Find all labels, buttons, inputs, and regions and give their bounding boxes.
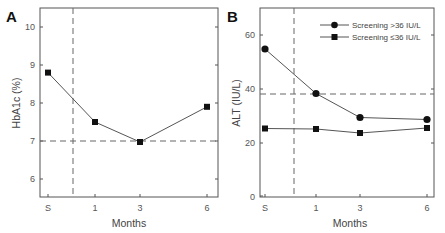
figure: A 10 9 8 7 6 S 1 3 (0, 0, 445, 233)
data-point-square (92, 119, 98, 125)
series-low-markers (262, 125, 430, 136)
panel-a: A 10 9 8 7 6 S 1 3 (6, 8, 218, 229)
y-tick-label: 60 (245, 30, 255, 40)
panel-a-x-axis-label: Months (112, 217, 146, 229)
panel-a-markers (45, 70, 210, 145)
panel-a-y-ticks: 10 9 8 7 6 (25, 22, 218, 184)
panel-a-y-axis-label: HbA1c (%) (10, 78, 22, 129)
x-tick-label: 3 (357, 203, 362, 213)
x-tick-label: 1 (92, 203, 97, 213)
series-low-line (265, 128, 427, 133)
legend-label-low: Screening ≤36 IU/L (352, 33, 421, 42)
x-tick-label: S (45, 203, 51, 213)
y-tick-label: 10 (25, 22, 35, 32)
y-tick-label: 6 (30, 174, 35, 184)
data-point-square (424, 125, 430, 131)
y-tick-label: 40 (245, 84, 255, 94)
series-high-line (265, 49, 427, 120)
x-tick-label: S (262, 203, 268, 213)
x-tick-label: 3 (137, 203, 142, 213)
x-tick-label: 6 (204, 203, 209, 213)
panel-b-x-axis-label: Months (333, 217, 367, 229)
x-tick-label: 1 (313, 203, 318, 213)
panel-a-frame (40, 8, 218, 197)
panel-a-series-line (48, 73, 207, 142)
y-tick-label: 9 (30, 60, 35, 70)
panel-b-legend: Screening >36 IU/L Screening ≤36 IU/L (320, 21, 421, 42)
data-point-square (204, 104, 210, 110)
panel-b: B 60 40 20 0 S 1 3 6 Months ALT (227, 8, 434, 229)
panel-b-label: B (227, 8, 238, 25)
data-point-circle (312, 90, 319, 97)
data-point-square (313, 126, 319, 132)
y-tick-label: 7 (30, 136, 35, 146)
data-point-square (357, 130, 363, 136)
data-point-circle (261, 45, 268, 52)
data-point-square (137, 139, 143, 145)
legend-circle-marker-icon (331, 22, 338, 29)
panel-a-label: A (6, 8, 17, 25)
data-point-square (262, 126, 268, 132)
legend-label-high: Screening >36 IU/L (352, 21, 421, 30)
x-tick-label: 6 (424, 203, 429, 213)
y-tick-label: 8 (30, 98, 35, 108)
panel-b-y-axis-label: ALT (IU/L) (230, 79, 242, 126)
series-high-markers (261, 45, 430, 123)
data-point-circle (423, 116, 430, 123)
legend-square-marker-icon (332, 34, 338, 40)
y-tick-label: 0 (250, 192, 255, 202)
data-point-square (45, 70, 51, 76)
data-point-circle (356, 114, 363, 121)
y-tick-label: 20 (245, 138, 255, 148)
